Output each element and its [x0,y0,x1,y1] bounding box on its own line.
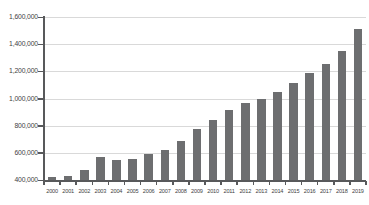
gridline [44,126,366,127]
y-axis-tick [38,152,44,154]
x-axis-tick [220,181,222,185]
bar-2004 [112,160,121,180]
y-axis-tick-label: 1,200,000 [0,67,38,74]
bar-chart: 1,600,0001,400,0001,200,0001,000,000800,… [0,0,369,205]
bar-2009 [193,129,202,180]
bar-2016 [305,73,314,180]
y-axis-tick-label: 1,000,000 [0,95,38,102]
bar-2005 [128,159,137,180]
x-axis-tick [43,181,45,185]
x-axis-tick [188,181,190,185]
bar-2015 [289,83,298,180]
x-axis-tick [59,181,61,185]
bar-2006 [144,154,153,180]
bar-2008 [177,141,186,180]
y-axis-tick-label: 600,000 [0,149,38,156]
x-axis-tick [108,181,110,185]
x-axis-tick [349,181,351,185]
bar-2013 [257,99,266,180]
gridlines [44,17,366,180]
y-axis-tick [38,125,44,127]
y-axis-tick-label: 800,000 [0,122,38,129]
bar-2000 [48,177,57,180]
bar-2018 [338,51,347,180]
bar-2003 [96,157,105,180]
x-axis-tick [140,181,142,185]
x-axis-tick [172,181,174,185]
y-axis-tick [38,44,44,46]
bar-2010 [209,120,218,180]
bar-2017 [322,64,331,180]
x-axis-tick [301,181,303,185]
y-axis-tick-label: 400,000 [0,176,38,183]
bar-2012 [241,103,250,180]
gridline [44,17,366,18]
bar-2001 [64,176,73,180]
x-axis-tick [317,181,319,185]
y-axis-tick [38,71,44,73]
x-axis-tick [236,181,238,185]
bar-2014 [273,92,282,180]
x-axis-tick [365,181,367,185]
x-axis-tick [253,181,255,185]
bar-2011 [225,110,234,180]
bar-2002 [80,170,89,180]
bar-2019 [354,29,363,180]
x-axis-tick [92,181,94,185]
gridline [44,71,366,72]
y-axis-tick-label: 1,600,000 [0,13,38,20]
x-axis-tick [333,181,335,185]
bar-2007 [161,150,170,180]
x-axis-tick-label: 2019 [348,188,368,195]
x-axis-tick [204,181,206,185]
gridline [44,99,366,100]
y-axis-tick-label: 1,400,000 [0,40,38,47]
y-axis-tick [38,17,44,19]
gridline [44,153,366,154]
x-axis-tick [285,181,287,185]
x-axis-tick [269,181,271,185]
x-axis-tick [124,181,126,185]
x-axis-tick [156,181,158,185]
x-axis-tick [75,181,77,185]
y-axis-tick [38,98,44,100]
gridline [44,44,366,45]
